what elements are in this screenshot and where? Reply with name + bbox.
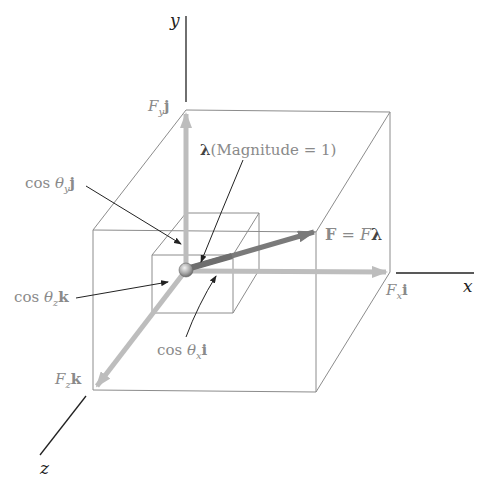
fx-arrow: [190, 271, 386, 272]
z-axis-line: [40, 396, 86, 455]
force-eq: =: [336, 225, 360, 244]
fy-label: Fyj: [148, 99, 170, 114]
force-rhs-lambda: λ: [371, 225, 382, 244]
cos-y-vec: j: [70, 174, 75, 192]
leader-lines: [76, 160, 243, 337]
cos-theta-z-label: cos θzk: [14, 290, 69, 305]
origin-sphere: [179, 263, 193, 277]
cos-y-theta: θ: [55, 174, 64, 192]
fz-label: Fzk: [55, 372, 81, 387]
cos-x-vec: i: [202, 341, 208, 359]
cos-z-sub: z: [53, 297, 58, 308]
leader-cos-x: [186, 276, 216, 337]
vector-diagram: [0, 0, 481, 486]
fx-label: Fxi: [386, 283, 408, 298]
lambda-arrow: [190, 256, 232, 268]
leader-cos-z: [76, 282, 168, 298]
x-axis-label: x: [463, 278, 473, 295]
leader-cos-y: [86, 186, 181, 244]
cos-y-pre: cos: [25, 174, 55, 192]
cos-z-pre: cos: [14, 288, 44, 306]
cos-x-theta: θ: [187, 341, 196, 359]
fx-sub: x: [396, 290, 402, 301]
cos-x-pre: cos: [157, 341, 187, 359]
cos-x-sub: x: [196, 350, 202, 361]
axes: [40, 16, 474, 455]
z-axis-label: z: [40, 460, 49, 477]
force-rhs-magnitude: F: [360, 225, 371, 244]
cos-y-sub: y: [64, 183, 70, 194]
fy-vec: j: [164, 97, 169, 115]
fx-vec: i: [402, 281, 408, 299]
fz-base: F: [55, 370, 65, 388]
fz-sub: z: [65, 379, 70, 390]
lambda-label: λ(Magnitude = 1): [200, 143, 336, 158]
fy-sub: y: [158, 106, 164, 117]
lambda-text: (Magnitude = 1): [211, 141, 337, 159]
leader-lambda: [201, 160, 243, 262]
fz-vec: k: [71, 370, 81, 388]
fy-base: F: [148, 97, 158, 115]
cos-theta-x-label: cos θxi: [157, 343, 207, 358]
y-axis-label: y: [170, 12, 180, 29]
lambda-symbol: λ: [200, 141, 211, 159]
cos-z-theta: θ: [44, 288, 53, 306]
cos-theta-y-label: cos θyj: [25, 176, 75, 191]
cos-z-vec: k: [58, 288, 68, 306]
fx-base: F: [386, 281, 396, 299]
fz-arrow: [97, 274, 183, 386]
force-label: F = Fλ: [325, 227, 382, 243]
force-lhs: F: [325, 225, 336, 244]
